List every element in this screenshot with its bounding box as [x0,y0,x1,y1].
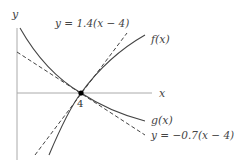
label-tangent-g: y = −0.7(x − 4) [150,129,234,141]
tangent-line-diagram: y x 4 f(x) g(x) y = 1.4(x − 4) y = −0.7(… [0,0,249,166]
x-axis-label: x [159,87,166,100]
tangency-point [78,90,83,95]
curve-f [49,35,145,155]
tick-label-4: 4 [77,98,83,109]
y-axis-label: y [11,8,19,21]
label-f: f(x) [150,33,170,46]
label-tangent-f: y = 1.4(x − 4) [54,17,129,29]
label-g: g(x) [151,114,173,127]
